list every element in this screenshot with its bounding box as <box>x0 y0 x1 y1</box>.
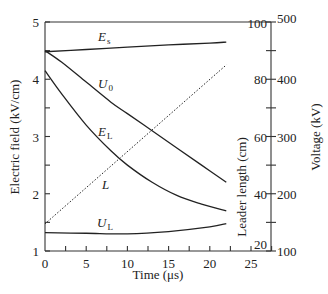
line-chart: 0510152025123452040608010010020030040050… <box>0 0 328 294</box>
x-tick-label: 20 <box>203 256 216 271</box>
series-labels: EsU0ELLUL <box>97 29 113 232</box>
y-axis-left-title: Electric field (kV/cm) <box>7 80 22 195</box>
y-left-tick-label: 4 <box>33 72 40 87</box>
y-left-tick-label: 1 <box>33 244 40 259</box>
y-axis-leader-title: Leader length (cm) <box>234 137 249 237</box>
y-leader-tick-label: 80 <box>254 72 267 87</box>
series-label-l: L <box>101 177 109 192</box>
series-line-u-0 <box>45 51 226 183</box>
y-leader-tick-label: 100 <box>248 16 268 31</box>
y-voltage-tick-label: 200 <box>277 187 297 202</box>
x-axis-title: Time (μs) <box>133 267 184 282</box>
series-line-e-s <box>45 42 226 52</box>
y-leader-tick-label: 40 <box>254 187 267 202</box>
x-tick-label: 25 <box>245 256 258 271</box>
y-voltage-tick-label: 400 <box>277 72 297 87</box>
y-leader-tick-label: 20 <box>254 237 267 252</box>
x-tick-label: 0 <box>42 256 49 271</box>
y-voltage-tick-label: 300 <box>277 130 297 145</box>
x-tick-label: 5 <box>83 256 90 271</box>
series-line-u-l <box>45 224 226 234</box>
series-line-e-l <box>45 71 226 211</box>
series-label-e-l: EL <box>97 124 112 141</box>
y-voltage-tick-label: 500 <box>277 11 297 26</box>
series-label-u-0: U0 <box>98 76 113 93</box>
y-left-tick-label: 3 <box>33 130 40 145</box>
series-lines <box>45 42 226 234</box>
y-left-tick-label: 5 <box>33 15 40 30</box>
y-axis-voltage-title: Voltage (kV) <box>308 103 323 170</box>
series-label-u-l: UL <box>97 215 113 232</box>
y-voltage-tick-label: 100 <box>277 244 297 259</box>
y-leader-tick-label: 60 <box>254 130 267 145</box>
y-left-tick-label: 2 <box>33 187 40 202</box>
series-label-e-s: Es <box>97 29 111 46</box>
series-line-l <box>45 65 226 224</box>
